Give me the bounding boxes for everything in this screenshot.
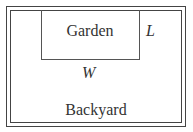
garden-label: Garden bbox=[41, 22, 139, 40]
backyard-label: Backyard bbox=[10, 101, 182, 119]
width-label: W bbox=[82, 64, 95, 82]
length-label: L bbox=[146, 22, 155, 40]
